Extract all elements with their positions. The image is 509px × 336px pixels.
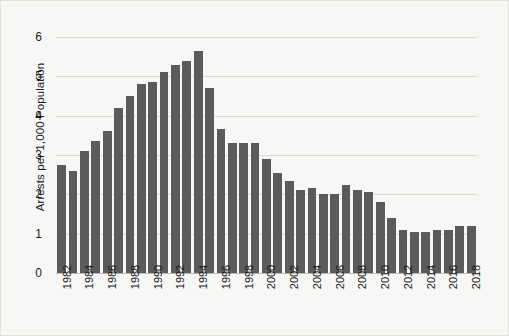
x-tick-cell: 2014 xyxy=(420,275,431,333)
bar-cell xyxy=(193,37,204,273)
x-tick-cell xyxy=(204,275,215,333)
bar xyxy=(308,188,317,273)
x-tick-cell xyxy=(272,275,283,333)
x-tick-cell: 2016 xyxy=(443,275,454,333)
bar-cell xyxy=(136,37,147,273)
x-tick-cell xyxy=(67,275,78,333)
y-tick-label: 5 xyxy=(35,69,42,83)
x-tick-cell xyxy=(409,275,420,333)
x-tick-cell xyxy=(386,275,397,333)
y-tick-label: 3 xyxy=(35,148,42,162)
bar xyxy=(205,88,214,273)
x-tick-cell: 2004 xyxy=(306,275,317,333)
bar xyxy=(251,143,260,273)
bar-cell xyxy=(409,37,420,273)
bar xyxy=(353,190,362,273)
bar xyxy=(376,202,385,273)
bar-series xyxy=(56,37,477,273)
bar-cell xyxy=(238,37,249,273)
x-tick-cell: 1996 xyxy=(215,275,226,333)
bar-cell xyxy=(215,37,226,273)
bar xyxy=(171,65,180,273)
x-tick-cell: 2012 xyxy=(397,275,408,333)
bar-cell xyxy=(375,37,386,273)
x-tick-cell xyxy=(363,275,374,333)
x-tick-cell: 1986 xyxy=(102,275,113,333)
bar xyxy=(285,181,294,273)
bar-cell xyxy=(454,37,465,273)
bar-cell xyxy=(102,37,113,273)
bar-cell xyxy=(124,37,135,273)
bar xyxy=(148,82,157,273)
x-tick-cell: 1984 xyxy=(79,275,90,333)
bar-cell xyxy=(56,37,67,273)
bar xyxy=(194,51,203,273)
bar xyxy=(239,143,248,273)
x-tick-cell: 1988 xyxy=(124,275,135,333)
bar xyxy=(330,194,339,273)
y-tick-label: 1 xyxy=(35,227,42,241)
bar-cell xyxy=(181,37,192,273)
bar-cell xyxy=(227,37,238,273)
x-tick-cell xyxy=(158,275,169,333)
x-tick-cell: 2008 xyxy=(352,275,363,333)
x-tick-cell xyxy=(249,275,260,333)
bar xyxy=(103,131,112,273)
bar-cell xyxy=(443,37,454,273)
x-tick-cell xyxy=(431,275,442,333)
bar-cell xyxy=(386,37,397,273)
bar xyxy=(273,173,282,273)
x-tick-cell xyxy=(454,275,465,333)
bar xyxy=(364,192,373,273)
bar xyxy=(80,151,89,273)
bar-cell xyxy=(318,37,329,273)
x-tick-cell: 2018 xyxy=(466,275,477,333)
bar xyxy=(160,72,169,273)
bar xyxy=(342,185,351,274)
bar xyxy=(69,171,78,273)
bar-cell xyxy=(397,37,408,273)
plot-area xyxy=(56,37,477,273)
bar xyxy=(114,108,123,273)
x-tick-cell xyxy=(90,275,101,333)
y-tick-label: 6 xyxy=(35,30,42,44)
bar-cell xyxy=(204,37,215,273)
bar-cell xyxy=(306,37,317,273)
bar-cell xyxy=(420,37,431,273)
x-tick-cell xyxy=(340,275,351,333)
bar xyxy=(228,143,237,273)
bar xyxy=(217,129,226,273)
x-tick-cell xyxy=(318,275,329,333)
x-axis-tick-labels: 1982198419861988199019921994199619982000… xyxy=(56,275,477,333)
x-tick-cell xyxy=(113,275,124,333)
x-tick-cell: 1990 xyxy=(147,275,158,333)
x-tick-cell: 2000 xyxy=(261,275,272,333)
bar xyxy=(137,84,146,273)
bar-cell xyxy=(147,37,158,273)
bar xyxy=(91,141,100,273)
bar-cell xyxy=(249,37,260,273)
x-tick-cell: 2002 xyxy=(284,275,295,333)
bar xyxy=(182,61,191,273)
x-tick-cell: 1994 xyxy=(193,275,204,333)
bar-cell xyxy=(158,37,169,273)
bar-cell xyxy=(79,37,90,273)
y-tick-label: 4 xyxy=(35,109,42,123)
bar xyxy=(262,159,271,273)
bar-cell xyxy=(363,37,374,273)
bar xyxy=(57,165,66,273)
y-tick-label: 0 xyxy=(35,266,42,280)
bar-cell xyxy=(284,37,295,273)
bar-cell xyxy=(431,37,442,273)
bar-chart-figure: Arrests per 1,000 Population 0123456 198… xyxy=(0,0,509,336)
bar-cell xyxy=(261,37,272,273)
bar-cell xyxy=(352,37,363,273)
x-tick-cell: 2006 xyxy=(329,275,340,333)
bar-cell xyxy=(170,37,181,273)
bar xyxy=(126,96,135,273)
bar-cell xyxy=(113,37,124,273)
x-tick-cell xyxy=(295,275,306,333)
x-tick-cell: 1992 xyxy=(170,275,181,333)
x-tick-cell xyxy=(227,275,238,333)
x-tick-cell: 2010 xyxy=(375,275,386,333)
